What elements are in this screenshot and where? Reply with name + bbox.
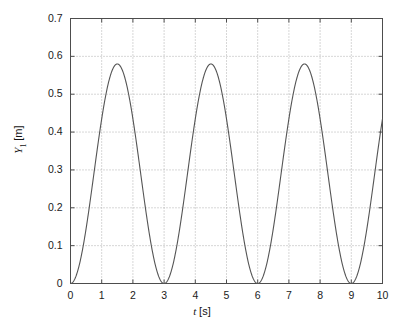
x-axis-tick-label: 7: [276, 289, 302, 301]
x-axis-variable: t: [193, 305, 196, 317]
x-axis-tick-label: 1: [89, 289, 115, 301]
chart-figure: 00.10.20.30.40.50.60.7 012345678910 Y1 […: [0, 0, 404, 327]
x-axis-tick-label: 10: [370, 289, 396, 301]
x-axis-title: t [s]: [0, 305, 404, 317]
y-axis-title: Y1 [m]: [12, 90, 27, 190]
y-axis-tick-label: 0.3: [29, 163, 63, 175]
x-axis-tick-label: 4: [182, 289, 208, 301]
vertical-gridlines: [102, 19, 352, 284]
x-axis-unit: [s]: [199, 305, 211, 317]
y-axis-tick-label: 0.2: [29, 201, 63, 213]
y-axis-unit: [m]: [12, 126, 24, 141]
x-axis-tick-label: 5: [214, 289, 240, 301]
x-axis-tick-label: 9: [338, 289, 364, 301]
y-axis-tick-label: 0: [29, 277, 63, 289]
y-axis-tick-label: 0.6: [29, 49, 63, 61]
y-axis-tick-label: 0.7: [29, 12, 63, 24]
x-axis-tick-label: 6: [245, 289, 271, 301]
y-axis-tick-label: 0.4: [29, 125, 63, 137]
x-axis-tick-label: 8: [307, 289, 333, 301]
x-axis-tick-label: 2: [120, 289, 146, 301]
y-axis-variable: Y: [12, 148, 24, 154]
y-axis-subscript: 1: [19, 144, 28, 148]
x-axis-tick-label: 0: [58, 289, 84, 301]
y-axis-tick-label: 0.5: [29, 87, 63, 99]
x-axis-tick-label: 3: [151, 289, 177, 301]
y-axis-tick-label: 0.1: [29, 239, 63, 251]
